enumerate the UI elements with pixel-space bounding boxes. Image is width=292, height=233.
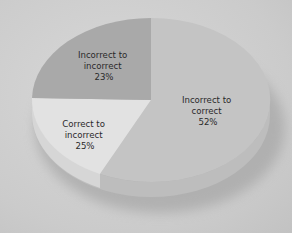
chart-area: Incorrect to incorrect 23% Incorrect to … (0, 0, 292, 233)
pie-chart: Incorrect to incorrect 23% Incorrect to … (0, 0, 292, 233)
